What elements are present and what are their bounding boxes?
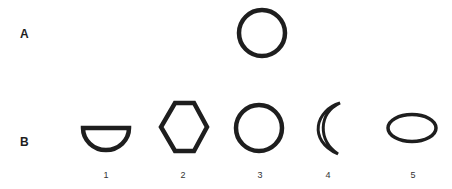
option-label-2: 2 [180,170,185,180]
ellipse-icon [388,115,436,142]
target-circle-icon [239,10,285,56]
crescent-icon [318,103,340,154]
shapes-canvas [0,0,452,189]
half-disc-icon [83,128,129,150]
option-label-5: 5 [410,170,415,180]
hexagon-icon [161,103,207,151]
option-label-1: 1 [103,170,108,180]
option-label-4: 4 [325,170,330,180]
option-label-3: 3 [257,170,262,180]
circle-icon [236,105,282,151]
